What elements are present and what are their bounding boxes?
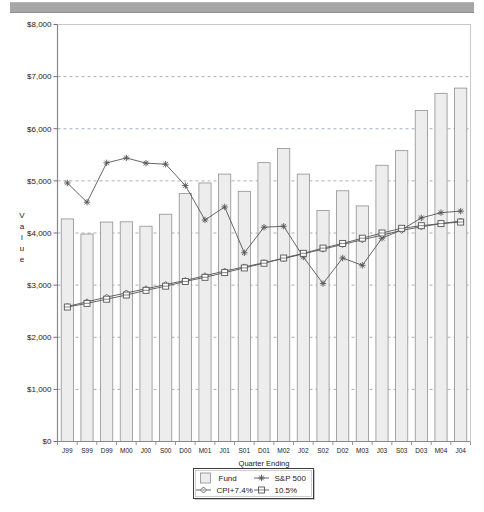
x-tick-label-J99: J99 — [62, 447, 73, 454]
x-tick-label-S00: S00 — [160, 447, 172, 454]
x-tick-label-J00: J00 — [141, 447, 152, 454]
legend-swatch-fund — [201, 473, 211, 483]
x-tick-label-M03: M03 — [356, 447, 369, 454]
y-tick-label: $3,000 — [27, 281, 52, 290]
x-tick-label-D02: D02 — [337, 447, 349, 454]
bar-M00 — [120, 222, 132, 442]
x-tick-label-D01: D01 — [258, 447, 270, 454]
y-axis-title-letter: e — [20, 255, 25, 264]
y-axis-title: Value — [19, 211, 25, 264]
bar-M02 — [278, 149, 290, 442]
y-axis-title-letter: a — [20, 222, 25, 231]
y-tick-label: $1,000 — [27, 385, 52, 394]
bar-J03 — [376, 165, 388, 441]
legend-item-fund[interactable]: Fund — [201, 473, 237, 483]
bar-D01 — [258, 163, 270, 442]
investment-growth-chart: $0$1,000$2,000$3,000$4,000$5,000$6,000$7… — [0, 0, 484, 512]
bar-S99 — [81, 234, 93, 441]
x-tick-label-J03: J03 — [377, 447, 388, 454]
x-tick-label-J02: J02 — [298, 447, 309, 454]
chart-legend: FundS&P 500CPI+7.4%10.5% — [194, 469, 316, 501]
y-tick-label: $0 — [43, 437, 52, 446]
bar-J01 — [219, 174, 231, 441]
legend-label: 10.5% — [275, 486, 298, 495]
bar-J02 — [297, 174, 309, 441]
bar-D00 — [179, 193, 191, 441]
bar-S03 — [396, 151, 408, 442]
y-tick-label: $7,000 — [27, 72, 52, 81]
bar-J04 — [455, 88, 467, 441]
legend-label: Fund — [219, 474, 237, 483]
x-tick-label-M01: M01 — [199, 447, 212, 454]
x-tick-label-D00: D00 — [179, 447, 191, 454]
y-axis-title-letter: V — [19, 211, 25, 220]
x-tick-label-S99: S99 — [81, 447, 93, 454]
chart-container: $0$1,000$2,000$3,000$4,000$5,000$6,000$7… — [0, 0, 484, 512]
x-tick-label-D99: D99 — [101, 447, 113, 454]
y-tick-label: $2,000 — [27, 333, 52, 342]
bar-M04 — [435, 93, 447, 441]
bar-J99 — [61, 219, 73, 442]
y-axis-title-letter: l — [21, 233, 23, 242]
y-tick-label: $5,000 — [27, 177, 52, 186]
bar-S00 — [160, 214, 172, 441]
x-tick-label-J04: J04 — [455, 447, 466, 454]
bar-S01 — [238, 191, 250, 441]
y-tick-label: $6,000 — [27, 125, 52, 134]
bar-J00 — [140, 226, 152, 441]
y-tick-label: $4,000 — [27, 229, 52, 238]
y-tick-label: $8,000 — [27, 20, 52, 29]
x-tick-label-M00: M00 — [120, 447, 133, 454]
bar-D02 — [337, 191, 349, 442]
bar-D99 — [101, 222, 113, 441]
x-tick-label-S01: S01 — [239, 447, 251, 454]
legend-label: CPI+7.4% — [217, 486, 253, 495]
x-tick-label-M02: M02 — [277, 447, 290, 454]
y-axis-title-letter: u — [20, 244, 24, 253]
bar-D03 — [415, 111, 427, 442]
x-axis-title: Quarter Ending — [239, 459, 290, 468]
x-tick-label-S02: S02 — [317, 447, 329, 454]
x-tick-label-S03: S03 — [396, 447, 408, 454]
x-tick-label-M04: M04 — [435, 447, 448, 454]
x-axis-title: Quarter Ending — [239, 459, 290, 468]
x-axis-labels: J99S99D99M00J00S00D00M01J01S01D01M02J02S… — [62, 447, 466, 454]
y-axis-labels: $0$1,000$2,000$3,000$4,000$5,000$6,000$7… — [27, 20, 57, 446]
legend-label: S&P 500 — [275, 474, 307, 483]
x-tick-label-J01: J01 — [219, 447, 230, 454]
x-tick-label-D03: D03 — [415, 447, 427, 454]
